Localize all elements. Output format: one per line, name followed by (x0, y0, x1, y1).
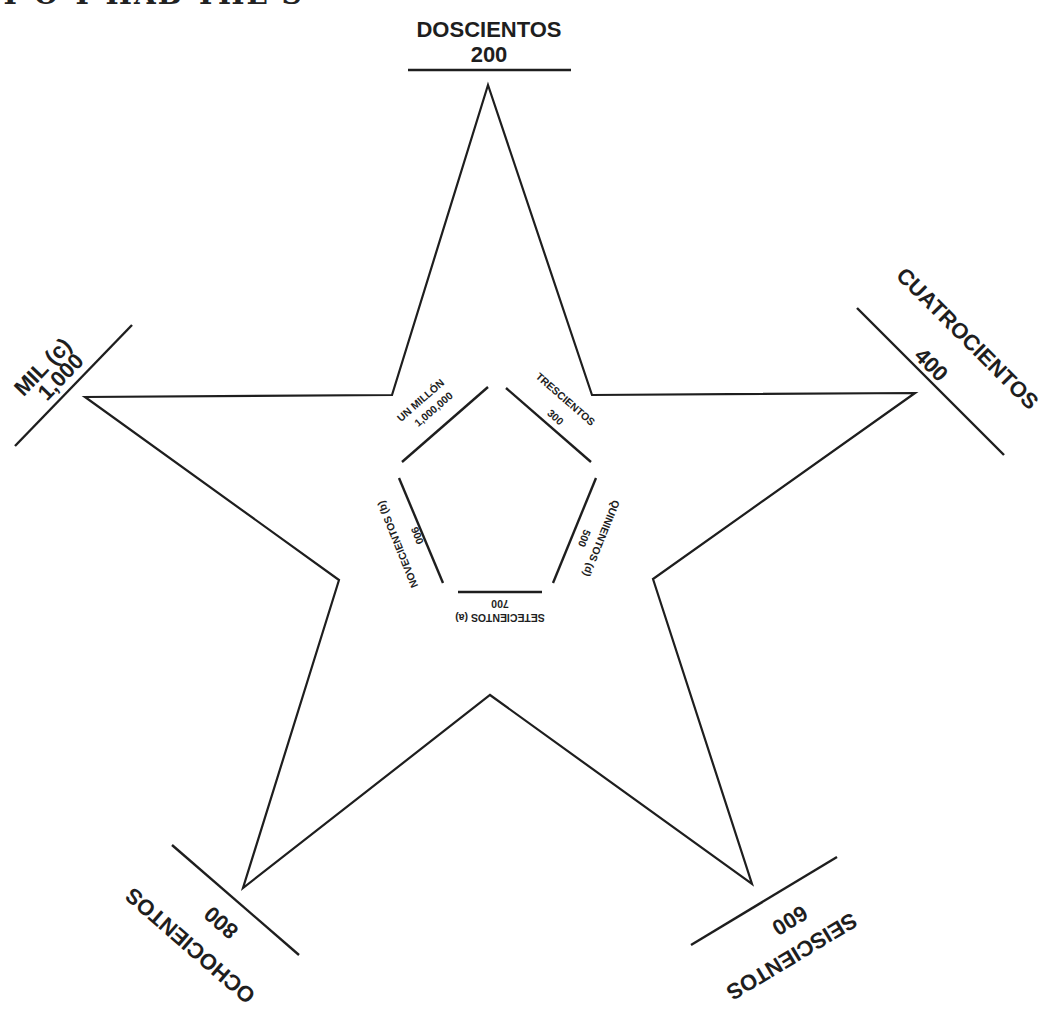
label-seiscientos: 600 SEISCIENTOS (691, 857, 862, 1005)
inner-label-novecientos: 900 NOVECIENTOS (b) (374, 478, 443, 590)
inner-label-quinientos: 500 QUINIENTOS (d) (553, 478, 623, 583)
label-number: 700 (491, 598, 509, 610)
inner-label-setecientos: 700 SETECIENTOS (a) (455, 592, 545, 624)
number-star-diagram: DOSCIENTOS 200 CUATROCIENTOS 400 600 SEI… (0, 0, 1056, 1023)
label-number: 500 (576, 528, 594, 549)
label-number: 200 (471, 42, 508, 67)
label-number: 400 (909, 343, 953, 387)
inner-label-un-millon: UN MILLÓN 1,000,000 (394, 376, 488, 462)
label-mil: MIL (c) 1,000 (9, 325, 132, 446)
label-word: SETECIENTOS (a) (455, 612, 545, 624)
star-outline (85, 85, 915, 888)
label-number: 800 (199, 901, 243, 944)
label-word: CUATROCIENTOS (892, 262, 1044, 414)
label-cuatrocientos: CUATROCIENTOS 400 (857, 262, 1044, 455)
label-doscientos: DOSCIENTOS 200 (408, 17, 571, 70)
label-rule (506, 388, 591, 462)
label-ochocientos: 800 OCHOCIENTOS (120, 845, 299, 1009)
label-number: 900 (409, 525, 427, 546)
inner-label-trescientos: TRESCIENTOS 300 (506, 370, 598, 462)
label-word: DOSCIENTOS (416, 17, 561, 42)
